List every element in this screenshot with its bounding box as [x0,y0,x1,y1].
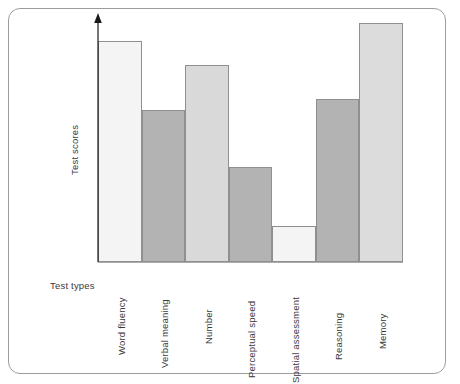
x-tick-label-perceptual-speed: Perceptual speed [246,301,257,378]
x-tick-label-reasoning: Reasoning [333,313,344,360]
bar-number [185,65,229,262]
x-tick-label-memory: Memory [377,313,388,349]
x-tick-label-word-fluency: Word fluency [116,297,127,355]
bar-reasoning [316,99,360,262]
figure-canvas: Test scores Test types Word fluency Verb… [0,0,460,384]
bar-perceptual-speed [229,167,273,262]
x-tick-label-number: Number [203,309,214,344]
bar-memory [359,23,403,262]
bar-word-fluency [98,41,142,262]
x-tick-label-spatial-assessment: Spatial assessment [290,297,301,383]
bar-verbal-meaning [142,110,186,262]
y-axis-arrowhead [94,13,102,23]
x-axis-title: Test types [50,280,95,291]
y-axis-title: Test scores [69,125,80,175]
x-tick-label-verbal-meaning: Verbal meaning [159,299,170,368]
plot-area: Test scores Test types Word fluency Verb… [0,0,460,384]
bar-spatial-assessment [272,226,316,262]
